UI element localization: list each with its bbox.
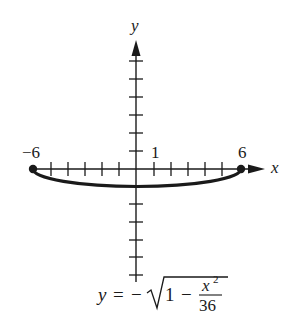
- endpoint-left: [29, 165, 37, 173]
- svg-text:2: 2: [213, 273, 219, 285]
- tick-label-one: 1: [151, 143, 160, 162]
- x-axis-arrow-icon: [248, 165, 265, 174]
- svg-text:y: y: [96, 284, 107, 305]
- svg-text:−: −: [181, 284, 192, 305]
- tick-label-six: 6: [238, 143, 247, 162]
- y-axis-arrow-icon: [132, 40, 141, 56]
- curve-lower-semi-ellipse: [33, 169, 241, 187]
- equation-label: y = − 1 − x 2 36: [96, 273, 228, 315]
- endpoint-right: [237, 165, 245, 173]
- tick-label-neg-six: −6: [22, 143, 40, 162]
- graph-figure: y x −6 1 6 y = − 1 − x 2 36: [0, 0, 294, 333]
- svg-text:1: 1: [165, 284, 175, 305]
- svg-text:−: −: [131, 284, 142, 305]
- svg-text:x: x: [201, 276, 210, 295]
- x-axis-label: x: [270, 158, 279, 177]
- y-axis-label: y: [129, 16, 139, 35]
- svg-text:36: 36: [199, 296, 216, 315]
- svg-text:=: =: [113, 284, 124, 305]
